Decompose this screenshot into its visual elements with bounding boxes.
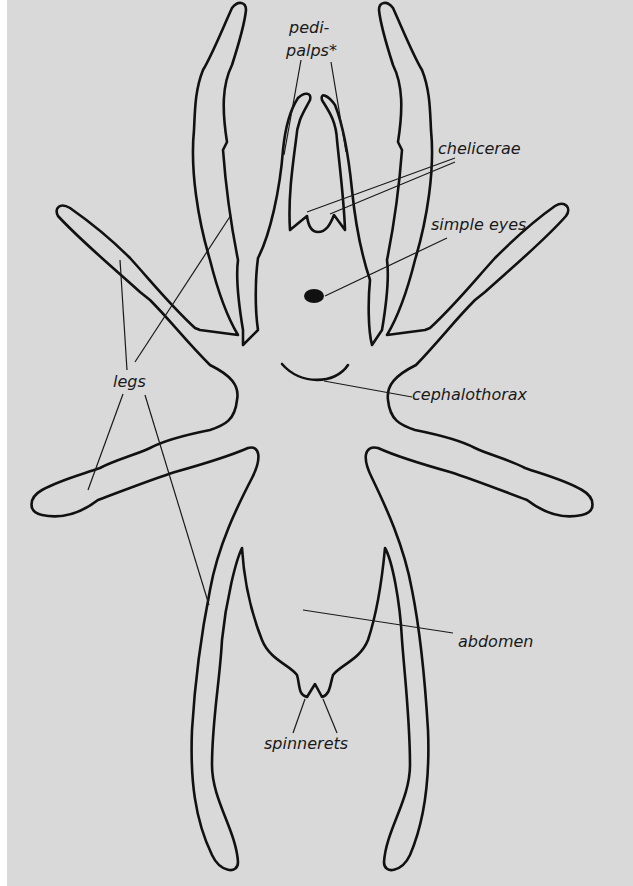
- leader-chelicerae-1: [307, 158, 455, 212]
- label-pedipalps-line1: pedi-: [289, 20, 329, 36]
- label-spinnerets: spinnerets: [264, 736, 348, 752]
- leader-legs-4: [145, 395, 209, 605]
- label-simple-eyes: simple eyes: [431, 217, 526, 233]
- leader-pedipalps-right: [331, 62, 346, 152]
- spider-diagram: [0, 0, 633, 886]
- label-legs: legs: [113, 374, 146, 390]
- leader-simple-eyes: [325, 238, 447, 296]
- leader-cephalothorax: [324, 381, 412, 397]
- leader-abdomen: [303, 610, 453, 633]
- label-abdomen: abdomen: [458, 634, 533, 650]
- leader-pedipalps-left: [284, 60, 301, 155]
- label-pedipalps-line2: palps*: [286, 43, 337, 59]
- leader-legs-2: [135, 215, 231, 362]
- leader-spinnerets-2: [323, 699, 337, 733]
- label-chelicerae: chelicerae: [438, 141, 521, 157]
- label-cephalothorax: cephalothorax: [412, 387, 527, 403]
- leader-spinnerets-1: [293, 699, 305, 733]
- simple-eye-icon: [304, 289, 324, 303]
- leader-legs-3: [88, 394, 123, 490]
- cephalothorax-arc: [282, 364, 348, 380]
